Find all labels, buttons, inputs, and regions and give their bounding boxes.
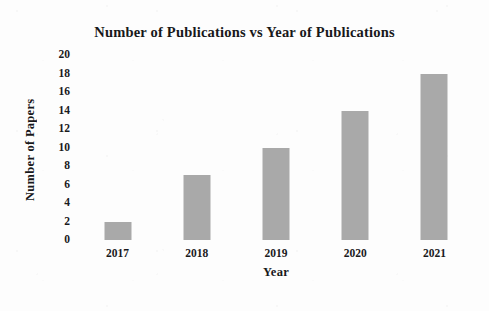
bar-slot [316, 55, 395, 240]
bar-2018[interactable] [183, 175, 210, 240]
x-axis-tick: 2021 [395, 247, 474, 259]
chart-title: Number of Publications vs Year of Public… [0, 24, 489, 41]
x-axis-tick-labels: 20172018201920202021 [78, 247, 474, 265]
bar-2019[interactable] [262, 148, 289, 241]
y-axis-tick: 0 [44, 234, 70, 246]
x-axis-label: Year [78, 265, 474, 280]
y-axis-tick: 18 [44, 68, 70, 80]
bar-2021[interactable] [421, 74, 448, 241]
bar-slot [395, 55, 474, 240]
bar-2017[interactable] [104, 222, 131, 241]
y-axis-label: Number of Papers [23, 90, 39, 210]
bar-slot [236, 55, 315, 240]
y-axis-tick: 8 [44, 160, 70, 172]
x-axis-tick: 2020 [316, 247, 395, 259]
y-axis-tick: 4 [44, 197, 70, 209]
bar-slot [78, 55, 157, 240]
x-axis-tick: 2018 [157, 247, 236, 259]
bar-chart-figure: Number of Publications vs Year of Public… [0, 0, 489, 311]
bar-slot [157, 55, 236, 240]
y-axis-tick: 16 [44, 86, 70, 98]
y-axis-tick: 14 [44, 105, 70, 117]
y-axis-tick: 2 [44, 216, 70, 228]
y-axis-tick: 10 [44, 142, 70, 154]
x-axis-tick: 2019 [236, 247, 315, 259]
y-axis-tick: 12 [44, 123, 70, 135]
plot-area [78, 55, 474, 240]
y-axis-tick: 6 [44, 179, 70, 191]
y-axis-tick-labels: 20181614121086420 [44, 47, 70, 247]
bar-2020[interactable] [342, 111, 369, 241]
x-axis-tick: 2017 [78, 247, 157, 259]
y-axis-tick: 20 [44, 49, 70, 61]
